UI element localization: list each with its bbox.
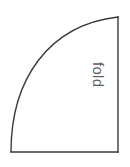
fold-label: fold — [90, 62, 107, 87]
figure-background — [0, 0, 130, 167]
fold-diagram-figure: fold — [0, 0, 130, 167]
quarter-circle-fold-drawing: fold — [0, 0, 130, 167]
